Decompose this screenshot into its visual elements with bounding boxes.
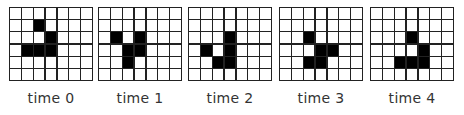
dead-cell (201, 8, 212, 19)
frame-label: time 2 (188, 90, 272, 106)
dead-cell (248, 69, 259, 80)
dead-cell (304, 45, 315, 56)
dead-cell (304, 20, 315, 31)
dead-cell (147, 20, 158, 31)
dead-cell (442, 20, 453, 31)
alive-cell (34, 20, 45, 31)
alive-cell (123, 45, 134, 56)
alive-cell (111, 32, 122, 43)
dead-cell (248, 45, 259, 56)
dead-cell (81, 69, 92, 80)
dead-cell (328, 20, 339, 31)
dead-cell (58, 32, 69, 43)
alive-cell (46, 45, 57, 56)
dead-cell (58, 69, 69, 80)
dead-cell (170, 69, 181, 80)
dead-cell (316, 8, 327, 19)
dead-cell (34, 69, 45, 80)
dead-cell (260, 32, 271, 43)
dead-cell (383, 57, 394, 68)
dead-cell (248, 32, 259, 43)
dead-cell (22, 69, 33, 80)
dead-cell (99, 20, 110, 31)
frame-time-0: time 0 (9, 7, 93, 106)
dead-cell (170, 45, 181, 56)
dead-cell (339, 69, 350, 80)
dead-cell (123, 69, 134, 80)
dead-cell (280, 20, 291, 31)
dead-cell (442, 57, 453, 68)
dead-cell (22, 57, 33, 68)
dead-cell (58, 57, 69, 68)
cell-grid (98, 7, 182, 81)
dead-cell (383, 20, 394, 31)
dead-cell (339, 20, 350, 31)
dead-cell (123, 8, 134, 19)
dead-cell (442, 8, 453, 19)
dead-cell (248, 8, 259, 19)
dead-cell (10, 69, 21, 80)
dead-cell (111, 69, 122, 80)
dead-cell (81, 57, 92, 68)
dead-cell (237, 8, 248, 19)
alive-cell (225, 45, 236, 56)
cell-grid (370, 7, 454, 81)
dead-cell (147, 45, 158, 56)
dead-cell (442, 32, 453, 43)
alive-cell (225, 32, 236, 43)
dead-cell (395, 20, 406, 31)
dead-cell (10, 57, 21, 68)
dead-cell (99, 69, 110, 80)
dead-cell (158, 32, 169, 43)
dead-cell (395, 69, 406, 80)
dead-cell (147, 8, 158, 19)
dead-cell (292, 8, 303, 19)
dead-cell (442, 45, 453, 56)
dead-cell (292, 69, 303, 80)
alive-cell (135, 45, 146, 56)
dead-cell (170, 57, 181, 68)
dead-cell (10, 20, 21, 31)
dead-cell (292, 20, 303, 31)
dead-cell (81, 32, 92, 43)
dead-cell (430, 32, 441, 43)
dead-cell (123, 20, 134, 31)
dead-cell (69, 20, 80, 31)
dead-cell (81, 45, 92, 56)
dead-cell (280, 32, 291, 43)
dead-cell (430, 8, 441, 19)
dead-cell (34, 8, 45, 19)
dead-cell (189, 45, 200, 56)
dead-cell (316, 69, 327, 80)
dead-cell (81, 20, 92, 31)
dead-cell (419, 32, 430, 43)
dead-cell (225, 69, 236, 80)
dead-cell (292, 45, 303, 56)
dead-cell (69, 69, 80, 80)
dead-cell (383, 32, 394, 43)
dead-cell (201, 20, 212, 31)
dead-cell (237, 20, 248, 31)
frame-label: time 3 (279, 90, 363, 106)
dead-cell (280, 45, 291, 56)
frame-time-1: time 1 (98, 7, 182, 106)
dead-cell (371, 57, 382, 68)
alive-cell (395, 57, 406, 68)
dead-cell (328, 32, 339, 43)
dead-cell (339, 8, 350, 19)
dead-cell (213, 69, 224, 80)
dead-cell (383, 8, 394, 19)
dead-cell (395, 8, 406, 19)
dead-cell (339, 32, 350, 43)
dead-cell (46, 20, 57, 31)
dead-cell (225, 20, 236, 31)
dead-cell (237, 45, 248, 56)
dead-cell (407, 45, 418, 56)
dead-cell (10, 32, 21, 43)
alive-cell (419, 45, 430, 56)
dead-cell (407, 20, 418, 31)
dead-cell (58, 45, 69, 56)
dead-cell (351, 20, 362, 31)
dead-cell (430, 69, 441, 80)
dead-cell (158, 57, 169, 68)
